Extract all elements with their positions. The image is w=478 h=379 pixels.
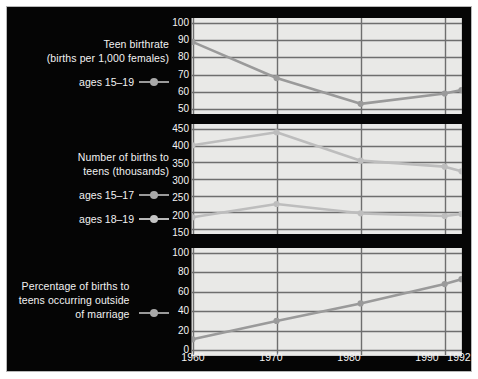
y-tick-label: 100 <box>159 248 189 258</box>
y-tick-label: 300 <box>159 176 189 186</box>
panel-top-svg <box>192 18 462 114</box>
data-line-ages-18–19 <box>193 132 462 171</box>
chart-panel-middle <box>191 124 462 234</box>
chart-panel-bottom <box>191 248 462 355</box>
data-point <box>442 90 448 96</box>
y-tick-label: 350 <box>159 159 189 169</box>
y-tick-label: 20 <box>159 326 189 336</box>
data-point <box>192 142 196 148</box>
data-point <box>458 276 462 282</box>
y-tick-label: 70 <box>159 70 189 80</box>
panel-bottom-svg <box>192 248 462 355</box>
chart-panel-top <box>191 18 462 114</box>
chart-plate: Teen birthrate (births per 1,000 females… <box>6 6 472 372</box>
y-tick-label: 250 <box>159 193 189 203</box>
panel-middle-svg <box>192 124 462 234</box>
y-tick-label: 100 <box>159 18 189 28</box>
y-tick-label: 40 <box>159 306 189 316</box>
y-tick-label: 80 <box>159 52 189 62</box>
data-point <box>358 101 364 107</box>
chart-figure: Teen birthrate (births per 1,000 females… <box>0 0 478 379</box>
data-line-percentage-outside-of-marriage <box>193 279 462 339</box>
legend-group-number-of-births: Number of births to teens (thousands) ag… <box>7 150 173 226</box>
legend-label-ages-15-19: ages 15–19 <box>79 75 134 89</box>
data-point <box>442 213 448 219</box>
legend-entry-ages-15-17: ages 15–17 <box>7 188 169 202</box>
y-tick-label: 400 <box>159 141 189 151</box>
data-point <box>192 336 196 342</box>
x-tick-label: 1990 <box>415 351 438 363</box>
legend-entry-ages-15-19: ages 15–19 <box>7 75 169 89</box>
x-tick-label: 1980 <box>337 351 360 363</box>
legend-label-ages-18-19: ages 18–19 <box>79 212 134 226</box>
y-tick-label: 150 <box>159 228 189 238</box>
y-tick-label: 60 <box>159 87 189 97</box>
x-tick-label: 1992 <box>447 351 470 363</box>
data-point <box>273 201 279 207</box>
data-point <box>358 300 364 306</box>
data-point <box>442 164 448 170</box>
y-tick-label: 60 <box>159 287 189 297</box>
data-line-ages-15–19 <box>193 42 462 104</box>
y-tick-label: 200 <box>159 211 189 221</box>
legend-title-percentage-outside-marriage: Percentage of births to teens occurring … <box>19 279 130 321</box>
data-point <box>273 75 279 81</box>
data-point <box>273 318 279 324</box>
legend-title-teen-birthrate: Teen birthrate (births per 1,000 females… <box>7 37 169 65</box>
legend-group-percentage-outside-marriage: Percentage of births to teens occurring … <box>7 279 173 322</box>
x-tick-label: 1970 <box>259 351 282 363</box>
data-line-ages-15–17 <box>193 204 462 217</box>
legend-group-teen-birthrate: Teen birthrate (births per 1,000 females… <box>7 37 173 89</box>
x-axis-tick-labels: 1960 1970 1980 1990 1992 <box>193 351 468 367</box>
data-point <box>358 158 364 164</box>
data-point <box>192 214 196 220</box>
y-tick-label: 90 <box>159 35 189 45</box>
x-tick-label: 1960 <box>181 351 204 363</box>
legend-title-number-of-births: Number of births to teens (thousands) <box>7 150 169 178</box>
data-point <box>442 281 448 287</box>
data-point <box>273 129 279 135</box>
legend-column: Teen birthrate (births per 1,000 females… <box>7 7 177 373</box>
legend-entry-ages-18-19: ages 18–19 <box>7 212 169 226</box>
y-tick-label: 450 <box>159 124 189 134</box>
data-point <box>458 168 462 174</box>
y-tick-label: 80 <box>159 267 189 277</box>
data-point <box>358 210 364 216</box>
y-tick-label: 50 <box>159 104 189 114</box>
legend-label-ages-15-17: ages 15–17 <box>79 188 134 202</box>
